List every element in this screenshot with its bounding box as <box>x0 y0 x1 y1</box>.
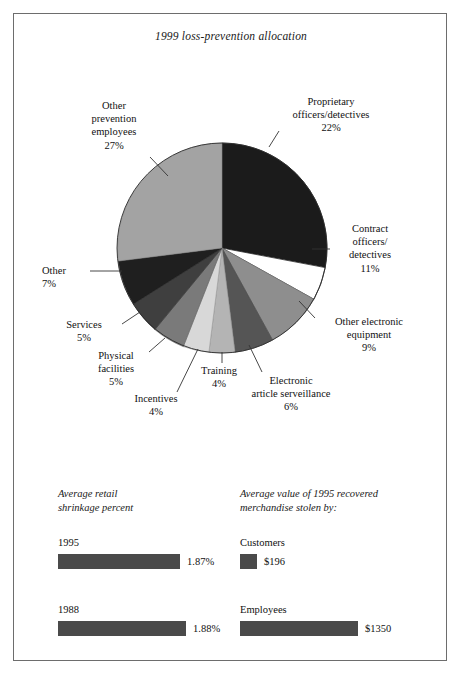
pie-label-other: Other 7% <box>42 264 98 290</box>
bar-value-employees: $1350 <box>365 623 391 634</box>
bar-fill-employees <box>240 621 358 636</box>
bar-fill-customers <box>240 554 257 569</box>
pie-value-prevention-employees: 27% <box>62 139 166 152</box>
bar-series-customers: Customers $196 <box>240 536 440 569</box>
bar-row-customers: $196 <box>240 554 440 569</box>
bar-panel-recovered-heading: Average value of 1995 recovered merchand… <box>240 487 440 515</box>
bar-panel-shrinkage-heading: Average retail shrinkage percent <box>58 487 228 515</box>
pie-value-eas: 6% <box>226 400 356 413</box>
chart-title: 1999 loss-prevention allocation <box>0 30 462 42</box>
pie-value-training: 4% <box>182 377 256 390</box>
bar-row-employees: $1350 <box>240 621 440 636</box>
bar-row-1995: 1.87% <box>58 554 228 569</box>
pie-value-physical: 5% <box>77 375 155 388</box>
bar-label-employees: Employees <box>240 603 440 617</box>
pie-label-training: Training 4% <box>182 364 256 390</box>
bar-label-1988: 1988 <box>58 603 228 617</box>
bar-value-customers: $196 <box>264 556 285 567</box>
bar-panel-shrinkage: Average retail shrinkage percent 1995 1.… <box>58 487 228 636</box>
pie-label-incentives: Incentives 4% <box>111 392 201 418</box>
bar-fill-1988 <box>58 621 186 636</box>
bar-panel-recovered-merchandise: Average value of 1995 recovered merchand… <box>240 487 440 636</box>
pie-value-other-electronic: 9% <box>308 341 430 354</box>
pie-value-proprietary: 22% <box>246 121 416 134</box>
bar-series-employees: Employees $1350 <box>240 603 440 636</box>
bar-value-1995: 1.87% <box>187 556 214 567</box>
bar-label-1995: 1995 <box>58 536 228 550</box>
pie-label-services: Services 5% <box>48 318 120 344</box>
pie-value-contract: 11% <box>320 262 420 275</box>
bar-series-1995: 1995 1.87% <box>58 536 228 569</box>
bar-series-1988: 1988 1.88% <box>58 603 228 636</box>
pie-value-services: 5% <box>48 331 120 344</box>
bar-fill-1995 <box>58 554 180 569</box>
bar-label-customers: Customers <box>240 536 440 550</box>
pie-label-contract-officers-detectives: Contract officers/ detectives 11% <box>320 222 420 275</box>
pie-value-other: 7% <box>42 277 98 290</box>
bar-value-1988: 1.88% <box>193 623 220 634</box>
pie-label-other-electronic-equipment: Other electronic equipment 9% <box>308 315 430 355</box>
bar-row-1988: 1.88% <box>58 621 228 636</box>
pie-label-proprietary-officers-detectives: Proprietary officers/detectives 22% <box>246 95 416 135</box>
pie-value-incentives: 4% <box>111 405 201 418</box>
pie-label-physical-facilities: Physical facilities 5% <box>77 349 155 389</box>
pie-label-other-prevention-employees: Other prevention employees 27% <box>62 99 166 152</box>
